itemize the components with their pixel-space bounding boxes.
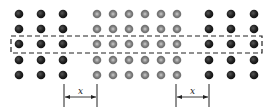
- dark-atom: [15, 40, 24, 49]
- dimension-x: x: [176, 84, 209, 107]
- gray-atom: [93, 10, 102, 19]
- dark-atom: [205, 10, 214, 19]
- gray-atom: [109, 40, 118, 49]
- dark-atom: [250, 71, 259, 80]
- dark-atom: [15, 25, 24, 34]
- dark-atom: [15, 71, 24, 80]
- dark-atom: [250, 25, 259, 34]
- gray-atom: [157, 10, 166, 19]
- gray-atom: [141, 40, 150, 49]
- dark-atom: [59, 25, 68, 34]
- dark-atom: [205, 56, 214, 65]
- dark-atom: [59, 40, 68, 49]
- gray-atom: [173, 10, 182, 19]
- dimension-label: x: [190, 86, 195, 96]
- gray-atom: [157, 25, 166, 34]
- gray-atom: [125, 56, 134, 65]
- lattice-diagram: xx: [0, 0, 272, 112]
- dark-atom: [250, 40, 259, 49]
- dimension-x: x: [64, 84, 97, 107]
- dark-atom: [15, 56, 24, 65]
- gray-atom: [109, 10, 118, 19]
- gray-atom: [141, 56, 150, 65]
- dark-atom: [59, 10, 68, 19]
- dark-atom: [37, 10, 46, 19]
- gray-atom: [109, 56, 118, 65]
- gray-atom: [125, 40, 134, 49]
- gray-atom: [173, 56, 182, 65]
- gray-atom: [93, 40, 102, 49]
- left-dark-atoms: [15, 10, 68, 80]
- dark-atom: [205, 40, 214, 49]
- dark-atom: [37, 56, 46, 65]
- dark-atom: [37, 40, 46, 49]
- right-dark-atoms: [205, 10, 259, 80]
- dimension-label: x: [78, 86, 83, 96]
- gray-atom: [141, 10, 150, 19]
- gray-atom: [157, 71, 166, 80]
- dark-atom: [227, 40, 236, 49]
- gray-atom: [173, 40, 182, 49]
- dark-atom: [227, 56, 236, 65]
- gray-atom: [141, 25, 150, 34]
- dark-atom: [227, 25, 236, 34]
- gray-atom: [157, 40, 166, 49]
- dark-atom: [59, 71, 68, 80]
- dashed-selection-box: [11, 36, 262, 53]
- dark-atom: [59, 56, 68, 65]
- center-gray-atoms: [93, 10, 182, 80]
- dark-atom: [250, 56, 259, 65]
- dark-atom: [37, 25, 46, 34]
- dark-atom: [37, 71, 46, 80]
- dimension-markers: xx: [64, 84, 209, 107]
- dark-atom: [250, 10, 259, 19]
- gray-atom: [125, 10, 134, 19]
- gray-atom: [125, 25, 134, 34]
- gray-atom: [109, 25, 118, 34]
- dark-atom: [15, 10, 24, 19]
- dark-atom: [227, 10, 236, 19]
- gray-atom: [173, 71, 182, 80]
- gray-atom: [173, 25, 182, 34]
- gray-atom: [93, 25, 102, 34]
- gray-atom: [93, 56, 102, 65]
- gray-atom: [157, 56, 166, 65]
- dark-atom: [205, 71, 214, 80]
- gray-atom: [93, 71, 102, 80]
- gray-atom: [141, 71, 150, 80]
- dark-atom: [205, 25, 214, 34]
- gray-atom: [125, 71, 134, 80]
- gray-atom: [109, 71, 118, 80]
- dark-atom: [227, 71, 236, 80]
